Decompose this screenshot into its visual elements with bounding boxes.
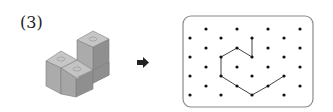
grid-dot: [298, 84, 301, 87]
grid-dot: [298, 27, 301, 30]
grid-dot: [266, 46, 269, 49]
grid-dot: [204, 65, 207, 68]
right-arrow-icon: [137, 57, 149, 68]
grid-dot: [188, 93, 191, 96]
grid-dot: [204, 84, 207, 87]
grid-dot: [235, 46, 238, 49]
diagram-canvas: [0, 0, 333, 112]
grid-dot: [235, 65, 238, 68]
grid-dot: [250, 74, 253, 77]
grid-dot: [204, 46, 207, 49]
grid-dot: [235, 84, 238, 87]
grid-dot: [282, 93, 285, 96]
grid-dot: [235, 27, 238, 30]
grid-dot: [282, 55, 285, 58]
grid-dot: [266, 84, 269, 87]
dot-grid-frame: [183, 16, 313, 107]
grid-dot: [298, 46, 301, 49]
grid-dot: [250, 55, 253, 58]
grid-dot: [188, 74, 191, 77]
grid-dot: [219, 74, 222, 77]
grid-dot: [266, 27, 269, 30]
grid-dot: [188, 36, 191, 39]
grid-dot: [250, 93, 253, 96]
cube-stack-figure: [46, 31, 109, 97]
grid-dot: [219, 36, 222, 39]
grid-dot: [298, 65, 301, 68]
grid-dot: [219, 93, 222, 96]
grid-dot: [219, 55, 222, 58]
grid-dot: [282, 36, 285, 39]
grid-dot: [250, 36, 253, 39]
grid-dot: [282, 74, 285, 77]
grid-dot: [204, 27, 207, 30]
grid-dot: [188, 55, 191, 58]
grid-dot: [266, 65, 269, 68]
